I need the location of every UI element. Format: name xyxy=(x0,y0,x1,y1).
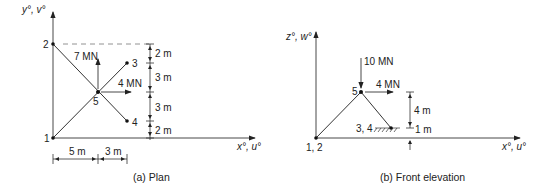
plan-x-axis-label: x°, u° xyxy=(236,141,261,152)
dim-3m-lower: 3 m xyxy=(155,102,172,113)
force-4mn-elev-label: 4 MN xyxy=(376,79,400,90)
node-5-elev-label: 5 xyxy=(352,86,358,97)
node-4-label: 4 xyxy=(132,117,138,128)
node-1 xyxy=(51,136,55,140)
dim-1m: 1 m xyxy=(415,124,432,135)
node-5 xyxy=(96,90,100,94)
diagram-canvas: y°, v° x°, u° 2 1 3 4 5 7 MN 4 MN 2 m 3 … xyxy=(0,0,549,188)
node-2-label: 2 xyxy=(43,39,49,50)
node-3-label: 3 xyxy=(132,58,138,69)
dim-3m-upper: 3 m xyxy=(155,72,172,83)
force-7mn-label: 7 MN xyxy=(74,51,98,62)
node-4 xyxy=(125,119,129,123)
elev-x-axis-label: x°, u° xyxy=(501,141,526,152)
dim-2m-bottom: 2 m xyxy=(155,125,172,136)
dim-4m: 4 m xyxy=(414,105,431,116)
force-10mn-label: 10 MN xyxy=(364,56,393,67)
member-12-5 xyxy=(316,92,361,138)
force-4mn-label: 4 MN xyxy=(118,78,142,89)
node-1-label: 1 xyxy=(44,133,50,144)
plan-y-axis-label: y°, v° xyxy=(21,4,46,15)
node-2 xyxy=(51,42,55,46)
node-3-4 xyxy=(389,126,393,130)
node-3-4-label: 3, 4 xyxy=(356,123,373,134)
member-1-3 xyxy=(53,63,127,138)
node-3 xyxy=(125,61,129,65)
dim-3m-h: 3 m xyxy=(105,146,122,157)
node-5-label: 5 xyxy=(93,96,99,107)
plan-view xyxy=(51,12,255,164)
node-1-2-label: 1, 2 xyxy=(306,142,323,153)
node-1-2 xyxy=(314,136,318,140)
node-5-elev xyxy=(359,90,363,94)
support-hatch-icon xyxy=(374,128,400,132)
dim-5m: 5 m xyxy=(69,146,86,157)
elev-z-axis-label: z°, w° xyxy=(285,31,312,42)
dim-2m-top: 2 m xyxy=(155,48,172,59)
elevation-caption: (b) Front elevation xyxy=(380,171,465,183)
plan-caption: (a) Plan xyxy=(133,171,170,183)
